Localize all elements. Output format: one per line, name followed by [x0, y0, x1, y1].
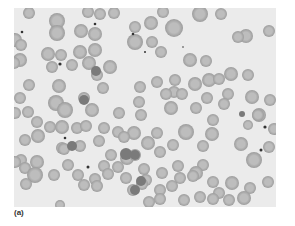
red-blood-cell [44, 121, 56, 133]
red-blood-cell [73, 45, 87, 59]
red-blood-cell [243, 120, 253, 130]
red-blood-cell [232, 31, 244, 43]
micrograph-figure [14, 8, 276, 207]
red-blood-cell [224, 67, 238, 81]
red-blood-cell [176, 88, 188, 100]
red-blood-cell [57, 102, 73, 118]
red-blood-cell [85, 103, 99, 117]
red-blood-cell [62, 159, 74, 171]
red-blood-cell [223, 194, 235, 206]
dense-cell [136, 176, 146, 186]
red-blood-cell [237, 191, 251, 205]
red-blood-cell [102, 168, 114, 180]
red-blood-cell [164, 101, 178, 115]
red-blood-cell [127, 34, 143, 50]
red-blood-cell [252, 109, 264, 121]
red-blood-cell [245, 90, 259, 104]
red-blood-cell [80, 120, 92, 132]
red-blood-cell [205, 127, 219, 141]
red-blood-cell [183, 53, 197, 67]
red-blood-cell [19, 134, 31, 146]
dense-cell [130, 150, 140, 160]
red-blood-cell [97, 82, 109, 94]
red-blood-cell [263, 25, 275, 37]
platelet-dot [87, 166, 90, 169]
red-blood-cell [169, 74, 181, 86]
red-blood-cell [200, 55, 212, 67]
red-blood-cell [172, 160, 184, 172]
red-blood-cell [20, 178, 32, 190]
red-blood-cell [52, 79, 66, 93]
dense-cell [91, 66, 101, 76]
red-blood-cell [160, 88, 172, 100]
red-blood-cell [165, 19, 183, 37]
red-blood-cell [187, 170, 199, 182]
red-blood-cell [134, 81, 146, 93]
red-blood-cell [151, 127, 163, 139]
red-blood-cell [41, 47, 55, 61]
platelet-dot [132, 33, 135, 36]
red-blood-cell [197, 140, 209, 152]
red-blood-cell [207, 176, 219, 188]
red-blood-cell [129, 21, 141, 33]
red-blood-cell [91, 180, 103, 192]
red-blood-cell [178, 124, 194, 140]
red-blood-cell [155, 46, 167, 58]
red-blood-cell [194, 191, 206, 203]
red-blood-cell [103, 60, 117, 74]
red-blood-cell [154, 193, 166, 205]
platelet-dot [94, 23, 97, 26]
red-blood-cell [263, 141, 275, 153]
blood-smear-image [14, 8, 276, 207]
red-blood-cell [48, 169, 60, 181]
red-blood-cell [78, 179, 90, 191]
platelet-dot [144, 51, 146, 53]
red-blood-cell [151, 76, 163, 88]
red-blood-cell [264, 94, 276, 106]
red-blood-cell [15, 39, 27, 51]
red-blood-cell [141, 136, 155, 150]
red-blood-cell [262, 176, 274, 188]
red-blood-cell [88, 27, 102, 41]
red-blood-cell [138, 163, 150, 175]
red-blood-cell [201, 92, 213, 104]
red-blood-cell [133, 96, 145, 108]
platelet-dot [21, 31, 24, 34]
platelet-dot [182, 46, 184, 48]
red-blood-cell [207, 193, 219, 205]
red-blood-cell [118, 131, 130, 143]
platelet-dot [260, 149, 263, 152]
red-blood-cell [156, 167, 168, 179]
red-blood-cell [74, 24, 88, 38]
red-blood-cell [120, 172, 132, 184]
red-blood-cell [207, 114, 219, 126]
red-blood-cell [31, 116, 43, 128]
red-blood-cell [105, 149, 117, 161]
red-blood-cell [55, 49, 67, 61]
red-blood-cell [188, 77, 202, 91]
red-blood-cell [94, 8, 106, 20]
red-blood-cell [135, 109, 147, 121]
red-blood-cell [46, 61, 58, 73]
red-blood-cell [225, 176, 239, 190]
platelet-dot [263, 125, 266, 128]
figure-label: (a) [14, 208, 24, 217]
red-blood-cell [213, 73, 225, 85]
red-blood-cell [30, 155, 44, 169]
red-blood-cell [246, 152, 262, 168]
red-blood-cell [14, 92, 26, 104]
red-blood-cell [144, 16, 158, 30]
red-blood-cell [154, 146, 166, 158]
red-blood-cell [215, 8, 227, 20]
red-blood-cell [178, 194, 190, 206]
red-blood-cell [72, 169, 84, 181]
red-blood-cell [167, 139, 179, 151]
red-blood-cell [31, 129, 45, 143]
red-blood-cell [113, 107, 125, 119]
dense-cell [67, 141, 77, 151]
red-blood-cell [218, 98, 230, 110]
red-blood-cell [242, 69, 254, 81]
red-blood-cell [22, 106, 34, 118]
red-blood-cell [49, 25, 65, 41]
dense-cell [239, 111, 245, 117]
